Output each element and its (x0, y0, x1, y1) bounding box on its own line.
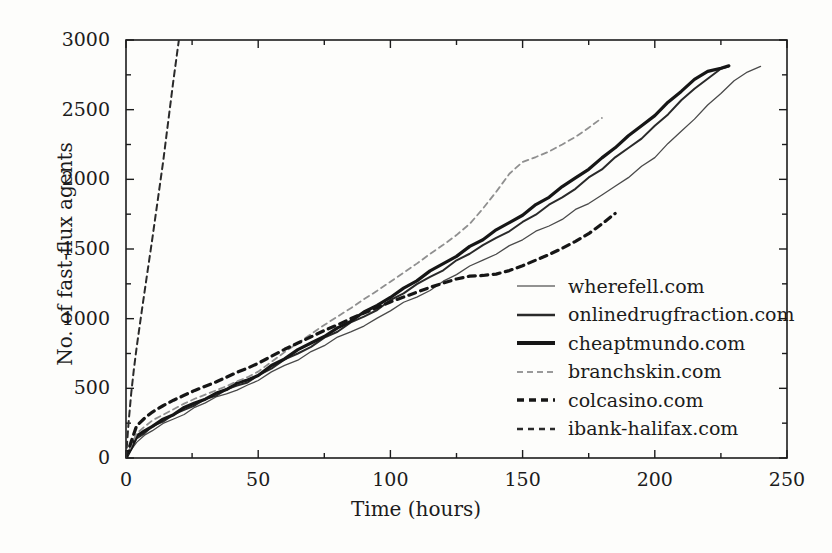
chart-legend: wherefell.comonlinedrugfraction.comcheap… (516, 272, 795, 443)
legend-label: branchskin.com (568, 362, 721, 381)
x-tick-label: 0 (86, 468, 166, 490)
fast-flux-agents-line-chart: 050010001500200025003000 050100150200250… (0, 0, 832, 553)
legend-item: wherefell.com (516, 272, 795, 301)
legend-label: ibank-halifax.com (568, 419, 738, 438)
x-axis-title: Time (hours) (0, 497, 832, 521)
legend-label: colcasino.com (568, 391, 703, 410)
legend-item: branchskin.com (516, 358, 795, 387)
y-tick-label: 3000 (0, 28, 110, 50)
x-tick-label: 50 (218, 468, 298, 490)
x-tick-label: 250 (747, 468, 827, 490)
x-tick-label: 100 (350, 468, 430, 490)
y-axis-title: No. of fast-flux agents (53, 84, 77, 424)
legend-item: ibank-halifax.com (516, 415, 795, 444)
legend-item: cheaptmundo.com (516, 329, 795, 358)
legend-swatch-icon (516, 365, 556, 379)
legend-swatch-icon (516, 422, 556, 436)
y-tick-label: 0 (0, 446, 110, 468)
legend-swatch-icon (516, 279, 556, 293)
legend-swatch-icon (516, 336, 556, 350)
legend-label: onlinedrugfraction.com (568, 305, 795, 324)
x-tick-label: 150 (483, 468, 563, 490)
legend-label: cheaptmundo.com (568, 334, 745, 353)
x-tick-label: 200 (615, 468, 695, 490)
legend-swatch-icon (516, 308, 556, 322)
legend-label: wherefell.com (568, 277, 705, 296)
legend-item: colcasino.com (516, 386, 795, 415)
legend-swatch-icon (516, 393, 556, 407)
legend-item: onlinedrugfraction.com (516, 301, 795, 330)
